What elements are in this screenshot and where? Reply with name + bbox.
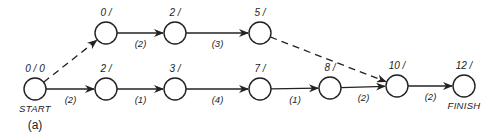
edge-start-t1 [44,40,97,82]
edge-duration: (1) [289,94,301,105]
node-time-label: 5 / [254,7,265,18]
edge-duration: (2) [425,91,437,102]
node-caption-finish: FINISH [448,100,481,111]
edge-b4-b5 [341,86,385,87]
edge-duration: (3) [212,38,224,49]
node-time-label: 12 / [456,60,473,71]
edge-duration: (1) [135,94,147,105]
node-b3 [249,78,271,100]
node-b4 [319,77,341,99]
node-b1 [95,78,117,100]
edge-t3-b5 [270,37,386,82]
node-time-label: 0 / [100,7,111,18]
edge-duration: (4) [212,94,224,105]
node-time-label: 7 / [254,63,265,74]
node-caption-start: START [19,103,51,114]
node-time-label: 2 / [100,63,111,74]
node-b2 [164,78,186,100]
network-diagram [0,0,500,137]
node-time-label: 8 / [324,62,335,73]
node-time-label: 10 / [389,60,406,71]
node-time-label: 2 / [169,7,180,18]
node-t1 [95,22,117,44]
edge-duration: (2) [135,38,147,49]
node-finish [453,75,475,97]
edge-duration: (2) [358,92,370,103]
node-b5 [386,75,408,97]
edge-b3-b4 [271,88,318,89]
node-time-label: 3 / [169,63,180,74]
node-t2 [164,22,186,44]
figure-label: (a) [28,118,43,132]
node-start [24,78,46,100]
node-t3 [249,22,271,44]
node-time-label: 0 / 0 [25,63,44,74]
edge-duration: (2) [65,94,77,105]
